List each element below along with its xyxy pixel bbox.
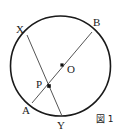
- point-label-b: B: [93, 17, 100, 28]
- chord-xy: [27, 35, 62, 116]
- figure-caption: 図 1: [96, 114, 114, 124]
- point-label-y: Y: [57, 120, 65, 131]
- point-label-a: A: [22, 105, 30, 116]
- point-label-x: X: [16, 24, 24, 35]
- point-dot-o: [60, 63, 63, 66]
- point-label-p: P: [36, 79, 42, 90]
- point-label-o: O: [67, 64, 75, 75]
- point-dot-p: [47, 84, 51, 88]
- figure-container: X B O P A Y 図 1: [0, 0, 123, 135]
